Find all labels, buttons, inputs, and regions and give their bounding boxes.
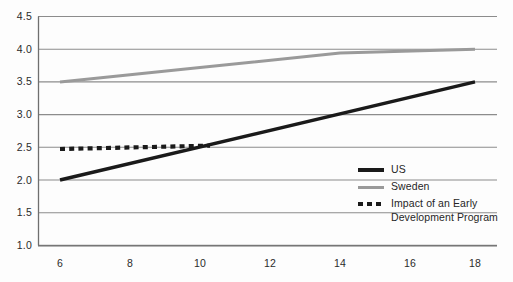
- solid-black-line-icon: [358, 163, 384, 177]
- legend-item-us: US: [358, 163, 508, 177]
- x-tick-label-10: 10: [185, 257, 215, 269]
- legend-label-us: US: [391, 163, 406, 177]
- y-tick-label-4-5: 4.5: [4, 10, 32, 22]
- y-tick-label-1-5: 1.5: [4, 206, 32, 218]
- y-tick-label-2-5: 2.5: [4, 141, 32, 153]
- x-tick-label-12: 12: [255, 257, 285, 269]
- series-line-sweden: [60, 49, 475, 82]
- x-tick-label-18: 18: [460, 257, 490, 269]
- y-tick-label-1-0: 1.0: [4, 239, 32, 251]
- legend-item-impact-program: Impact of an Early Development Program: [358, 197, 508, 224]
- y-tick-label-3-5: 3.5: [4, 75, 32, 87]
- dotted-black-line-icon: [358, 197, 384, 211]
- chart-legend: US Sweden Impact of an Early Development…: [358, 163, 508, 227]
- legend-label-impact-program-line2: Development Program: [391, 211, 498, 225]
- x-tick-label-14: 14: [325, 257, 355, 269]
- legend-label-sweden: Sweden: [391, 180, 430, 194]
- legend-item-sweden: Sweden: [358, 180, 508, 194]
- y-tick-label-4-0: 4.0: [4, 43, 32, 55]
- x-tick-label-6: 6: [45, 257, 75, 269]
- y-tick-label-2-0: 2.0: [4, 174, 32, 186]
- legend-label-impact-program-line1: Impact of an Early: [391, 197, 498, 211]
- x-tick-label-16: 16: [395, 257, 425, 269]
- solid-gray-line-icon: [358, 180, 384, 194]
- chart-canvas: [0, 0, 513, 282]
- line-chart: 4.5 4.0 3.5 3.0 2.5 2.0 1.5 1.0 6 8 10 1…: [0, 0, 513, 282]
- y-tick-label-3-0: 3.0: [4, 108, 32, 120]
- x-tick-label-8: 8: [115, 257, 145, 269]
